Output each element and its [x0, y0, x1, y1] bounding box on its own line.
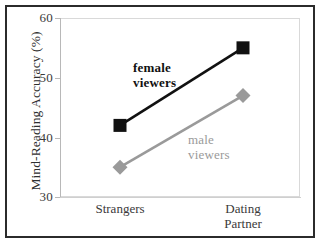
- annotation-female-line1: female: [133, 61, 176, 76]
- interaction-plot-figure: 60 50 40 30 Mind-Reading Accuracy (%) St…: [0, 0, 321, 244]
- annotation-female-line2: viewers: [133, 76, 176, 91]
- plot-area: [60, 18, 300, 197]
- y-tick-mark-30: [55, 197, 60, 198]
- y-tick-mark-40: [55, 138, 60, 139]
- y-axis-spine: [60, 18, 61, 198]
- x-tick-label-strangers-line1: Strangers: [65, 202, 175, 217]
- x-tick-label-strangers: Strangers: [65, 202, 175, 217]
- annotation-male-viewers: male viewers: [188, 133, 230, 162]
- annotation-female-viewers: female viewers: [133, 61, 176, 90]
- x-tick-label-dating-partner-line1: Dating: [188, 202, 298, 217]
- annotation-male-line1: male: [188, 133, 230, 148]
- x-tick-label-dating-partner-line2: Partner: [188, 217, 298, 232]
- y-axis-title: Mind-Reading Accuracy (%): [28, 13, 44, 209]
- x-axis-spine: [60, 197, 301, 198]
- y-tick-mark-60: [55, 18, 60, 19]
- annotation-male-line2: viewers: [188, 148, 230, 163]
- y-tick-mark-50: [55, 78, 60, 79]
- x-tick-label-dating-partner: Dating Partner: [188, 202, 298, 231]
